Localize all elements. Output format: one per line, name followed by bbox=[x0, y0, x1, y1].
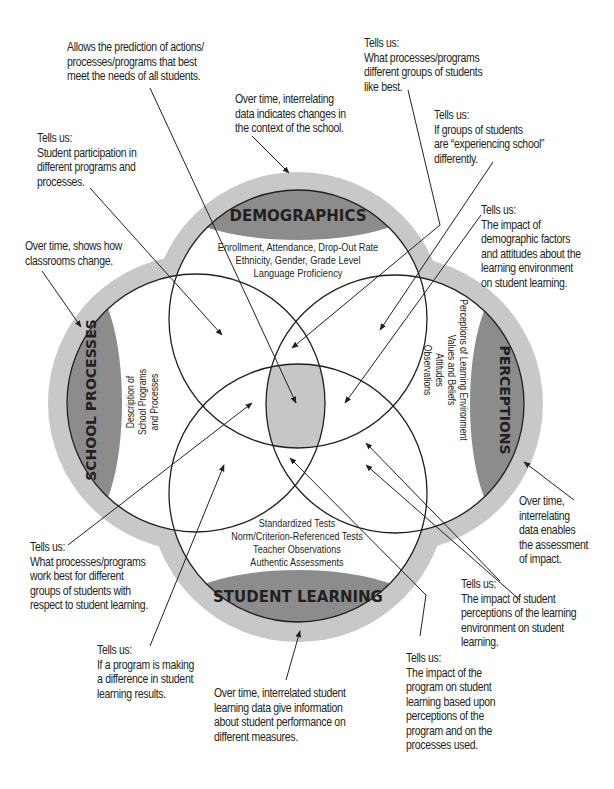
school-processes-item: Description of bbox=[125, 375, 136, 428]
school-processes-item: School Programs bbox=[137, 369, 148, 435]
callout-experiencing-school: Tells us: If groups of students are “exp… bbox=[434, 108, 544, 166]
title-student-learning: STUDENT LEARNING bbox=[213, 588, 383, 606]
student-learning-item: Standardized Tests bbox=[259, 517, 336, 529]
student-learning-item: Authentic Assessments bbox=[250, 556, 343, 568]
arrow-classrooms-change bbox=[42, 271, 81, 327]
demographics-item: Language Proficiency bbox=[254, 267, 343, 279]
title-perceptions: PERCEPTIONS bbox=[497, 345, 513, 454]
callout-classrooms-change: Over time, shows how classrooms change. bbox=[25, 239, 122, 268]
callout-making-difference: Tells us: If a program is making a diffe… bbox=[97, 643, 194, 701]
perceptions-item: Attitudes bbox=[434, 353, 445, 387]
callout-work-best: Tells us: What processes/programs work b… bbox=[30, 540, 148, 613]
demographics-item: Enrollment, Attendance, Drop-Out Rate bbox=[218, 241, 379, 253]
callout-participation: Tells us: Student participation in diffe… bbox=[37, 131, 136, 189]
school-processes-items: Description of School Programs and Proce… bbox=[125, 369, 160, 435]
callout-program-impact: Tells us: The impact of the program on s… bbox=[406, 651, 495, 753]
perceptions-item: Values and Beliefs bbox=[446, 335, 457, 406]
callout-like-best: Tells us: What processes/programs differ… bbox=[364, 36, 482, 94]
title-school-processes: SCHOOL PROCESSES bbox=[83, 319, 99, 481]
perceptions-item: Observations bbox=[422, 345, 433, 396]
school-processes-item: and Processes bbox=[149, 373, 160, 430]
callout-perceptions-impact: Tells us: The impact of student percepti… bbox=[461, 577, 576, 650]
student-learning-item: Norm/Criterion-Referenced Tests bbox=[231, 530, 363, 542]
callout-demographic-impact: Tells us: The impact of demographic fact… bbox=[481, 203, 581, 290]
arrow-demographics-over-time bbox=[252, 136, 289, 173]
demographics-item: Ethnicity, Gender, Grade Level bbox=[236, 254, 361, 266]
callout-demographics-over-time: Over time, interrelating data indicates … bbox=[235, 92, 346, 136]
title-demographics: DEMOGRAPHICS bbox=[229, 207, 366, 225]
callout-learning-over-time: Over time, interrelated student learning… bbox=[214, 686, 346, 744]
callout-perceptions-over-time: Over time, interrelating data enables th… bbox=[519, 494, 588, 567]
student-learning-item: Teacher Observations bbox=[253, 543, 341, 555]
perceptions-item: Perceptions of Learning Environment bbox=[458, 299, 469, 441]
callout-prediction: Allows the prediction of actions/ proces… bbox=[67, 40, 204, 84]
